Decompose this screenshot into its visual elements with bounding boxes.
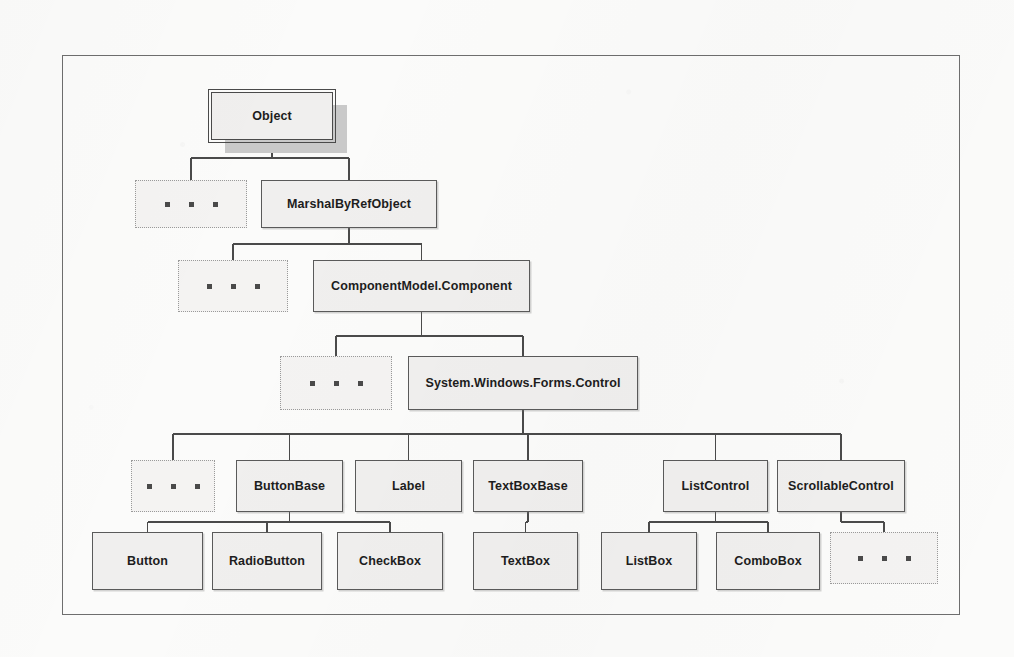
class-node-label: Object bbox=[252, 109, 292, 123]
ellipsis-dot-icon bbox=[207, 284, 212, 289]
class-node-marshalbyrefobject[interactable]: MarshalByRefObject bbox=[261, 180, 437, 228]
class-node-label: ComponentModel.Component bbox=[331, 279, 512, 293]
ellipsis-dot-icon bbox=[255, 284, 260, 289]
class-node-label[interactable]: Label bbox=[355, 460, 462, 512]
ellipsis-dot-icon bbox=[231, 284, 236, 289]
class-node-combobox[interactable]: ComboBox bbox=[716, 532, 820, 590]
ellipsis-dot-icon bbox=[147, 484, 152, 489]
class-node-label: CheckBox bbox=[359, 554, 421, 568]
class-node-object[interactable]: Object bbox=[211, 92, 333, 140]
class-node-label: Label bbox=[392, 479, 425, 493]
class-node-label: ListBox bbox=[626, 554, 673, 568]
ellipsis-node-ellipsis-4[interactable] bbox=[131, 460, 215, 512]
class-node-label: TextBox bbox=[501, 554, 550, 568]
class-node-listcontrol[interactable]: ListControl bbox=[663, 460, 768, 512]
ellipsis-dot-icon bbox=[358, 381, 363, 386]
diagram-canvas: ObjectMarshalByRefObjectComponentModel.C… bbox=[0, 0, 1014, 657]
ellipsis-node-ellipsis-5[interactable] bbox=[830, 532, 938, 584]
ellipsis-node-ellipsis-3[interactable] bbox=[280, 356, 392, 410]
ellipsis-dot-icon bbox=[882, 556, 887, 561]
class-node-radiobutton[interactable]: RadioButton bbox=[212, 532, 322, 590]
ellipsis-dot-icon bbox=[906, 556, 911, 561]
ellipsis-dot-icon bbox=[195, 484, 200, 489]
class-node-label: Button bbox=[127, 554, 168, 568]
class-node-label: ButtonBase bbox=[254, 479, 325, 493]
ellipsis-node-ellipsis-2[interactable] bbox=[178, 260, 288, 312]
class-node-scrollablecontrol[interactable]: ScrollableControl bbox=[777, 460, 905, 512]
class-node-control[interactable]: System.Windows.Forms.Control bbox=[408, 356, 638, 410]
class-node-textboxbase[interactable]: TextBoxBase bbox=[473, 460, 583, 512]
class-node-button[interactable]: Button bbox=[92, 532, 203, 590]
ellipsis-dot-icon bbox=[189, 202, 194, 207]
ellipsis-dot-icon bbox=[171, 484, 176, 489]
ellipsis-dot-icon bbox=[165, 202, 170, 207]
class-node-label: System.Windows.Forms.Control bbox=[425, 376, 620, 390]
ellipsis-dot-icon bbox=[858, 556, 863, 561]
ellipsis-dot-icon bbox=[334, 381, 339, 386]
ellipsis-dot-icon bbox=[310, 381, 315, 386]
class-node-checkbox[interactable]: CheckBox bbox=[337, 532, 443, 590]
class-node-label: TextBoxBase bbox=[488, 479, 567, 493]
class-node-label: ComboBox bbox=[734, 554, 801, 568]
class-node-listbox[interactable]: ListBox bbox=[601, 532, 697, 590]
class-node-label: ListControl bbox=[682, 479, 750, 493]
class-node-label: MarshalByRefObject bbox=[287, 197, 411, 211]
ellipsis-node-ellipsis-1[interactable] bbox=[135, 180, 247, 228]
ellipsis-dot-icon bbox=[213, 202, 218, 207]
class-node-label: ScrollableControl bbox=[788, 479, 894, 493]
class-node-component[interactable]: ComponentModel.Component bbox=[313, 260, 530, 312]
class-node-buttonbase[interactable]: ButtonBase bbox=[236, 460, 343, 512]
class-node-textbox[interactable]: TextBox bbox=[473, 532, 578, 590]
class-node-label: RadioButton bbox=[229, 554, 305, 568]
